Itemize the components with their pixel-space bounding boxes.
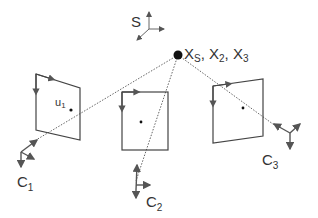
camera-c2-label: C2 — [146, 193, 163, 213]
camera-c1-label: C1 — [17, 173, 34, 193]
camera-c3-axes — [274, 124, 300, 149]
ray-c1 — [31, 55, 178, 143]
scene-point — [174, 51, 183, 60]
ray-c3 — [178, 55, 277, 127]
image-point-c2 — [140, 121, 143, 124]
image-plane-c3 — [213, 79, 263, 143]
camera-c3-label: C3 — [262, 151, 279, 171]
scene-frame-axes — [137, 12, 164, 40]
image-point-label: u1 — [55, 96, 66, 110]
camera-c1-axes — [21, 140, 37, 167]
scene-point-label: XS, X2, X3 — [184, 45, 249, 64]
scene-frame-label: S — [131, 13, 141, 30]
image-plane-c2 — [122, 92, 168, 150]
ray-c2 — [136, 55, 178, 181]
image-point-c3 — [242, 107, 245, 110]
plane1-u-axis-arrow — [36, 74, 52, 79]
image-point-u1 — [69, 108, 72, 111]
projection-rays — [31, 55, 277, 181]
multi-view-diagram: S u1 C1 C2 — [0, 0, 318, 218]
